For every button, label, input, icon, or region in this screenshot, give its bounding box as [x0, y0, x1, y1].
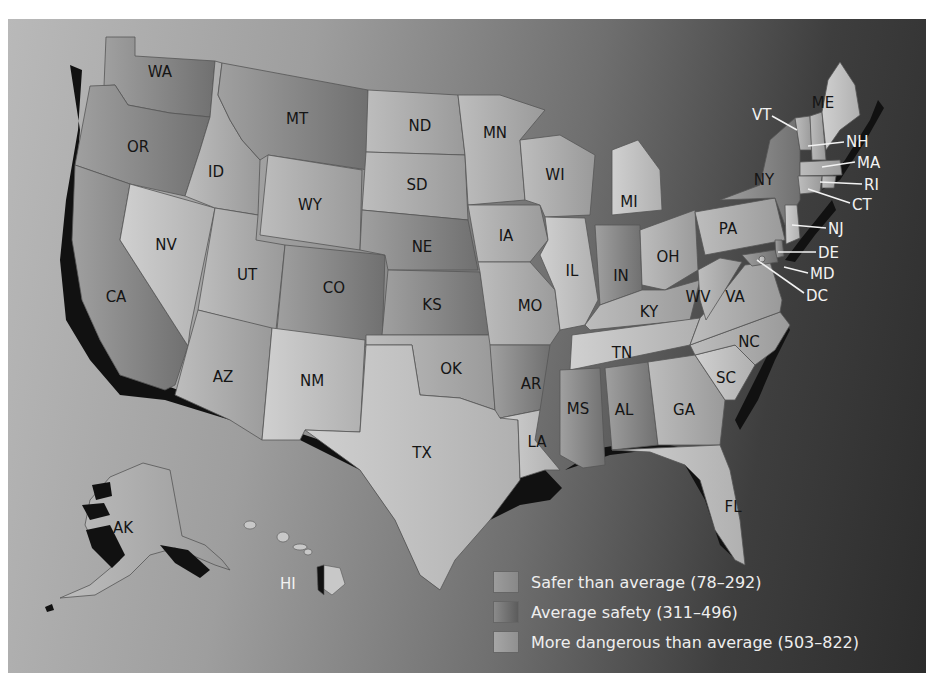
label-tx: TX — [411, 444, 431, 462]
label-or: OR — [127, 138, 149, 156]
label-al: AL — [615, 401, 634, 419]
legend-label-dangerous: More dangerous than average (503–822) — [531, 633, 859, 652]
label-ky: KY — [640, 303, 659, 321]
label-me: ME — [812, 94, 834, 112]
label-mo: MO — [518, 297, 543, 315]
label-az: AZ — [213, 368, 234, 386]
label-nh: NH — [846, 133, 869, 151]
legend-label-average: Average safety (311–496) — [531, 603, 738, 622]
label-ak: AK — [113, 519, 134, 537]
legend-label-safer: Safer than average (78–292) — [531, 573, 762, 592]
label-co: CO — [323, 279, 345, 297]
legend-item-average: Average safety (311–496) — [493, 597, 859, 627]
label-ri: RI — [864, 176, 879, 194]
state-ms[interactable] — [560, 368, 605, 468]
state-pa[interactable] — [695, 198, 785, 255]
legend-swatch-dangerous — [493, 631, 519, 653]
label-ok: OK — [440, 360, 463, 378]
label-ny: NY — [754, 171, 775, 189]
label-mt: MT — [286, 110, 309, 128]
label-nj: NJ — [828, 220, 844, 238]
label-in: IN — [613, 267, 629, 285]
label-ct: CT — [852, 196, 872, 214]
legend-swatch-average — [493, 601, 519, 623]
label-ks: KS — [422, 296, 441, 314]
label-ut: UT — [237, 266, 258, 284]
label-wa: WA — [148, 63, 173, 81]
legend-item-safer: Safer than average (78–292) — [493, 567, 859, 597]
label-ia: IA — [499, 227, 514, 245]
state-ma[interactable] — [800, 160, 842, 176]
label-nd: ND — [409, 117, 432, 135]
label-nv: NV — [155, 236, 177, 254]
label-de: DE — [818, 244, 839, 262]
label-fl: FL — [725, 498, 743, 516]
label-ga: GA — [673, 401, 696, 419]
label-il: IL — [566, 262, 579, 280]
state-ak[interactable] — [60, 463, 230, 598]
legend-item-dangerous: More dangerous than average (503–822) — [493, 627, 859, 657]
label-mn: MN — [483, 124, 507, 142]
label-la: LA — [528, 433, 548, 451]
label-hi: HI — [280, 575, 296, 593]
label-nm: NM — [300, 372, 324, 390]
label-nc: NC — [738, 333, 760, 351]
label-mi: MI — [620, 193, 637, 211]
label-id: ID — [208, 163, 224, 181]
label-vt: VT — [752, 106, 772, 124]
label-ca: CA — [106, 288, 127, 306]
label-md: MD — [810, 265, 835, 283]
legend: Safer than average (78–292) Average safe… — [493, 567, 859, 657]
label-wi: WI — [545, 166, 564, 184]
label-wy: WY — [298, 196, 323, 214]
label-wv: WV — [685, 288, 711, 306]
label-ms: MS — [567, 400, 589, 418]
label-ne: NE — [412, 238, 433, 256]
label-tn: TN — [611, 344, 632, 362]
label-ma: MA — [857, 154, 881, 172]
label-sc: SC — [716, 369, 736, 387]
label-pa: PA — [719, 220, 738, 238]
label-dc: DC — [806, 287, 828, 305]
state-ct[interactable] — [798, 176, 822, 194]
label-ar: AR — [521, 375, 542, 393]
legend-swatch-safer — [493, 571, 519, 593]
label-va: VA — [725, 288, 745, 306]
label-oh: OH — [656, 248, 679, 266]
map-panel: WA OR CA NV ID MT WY UT CO AZ NM ND SD N… — [8, 19, 926, 673]
label-sd: SD — [406, 176, 427, 194]
